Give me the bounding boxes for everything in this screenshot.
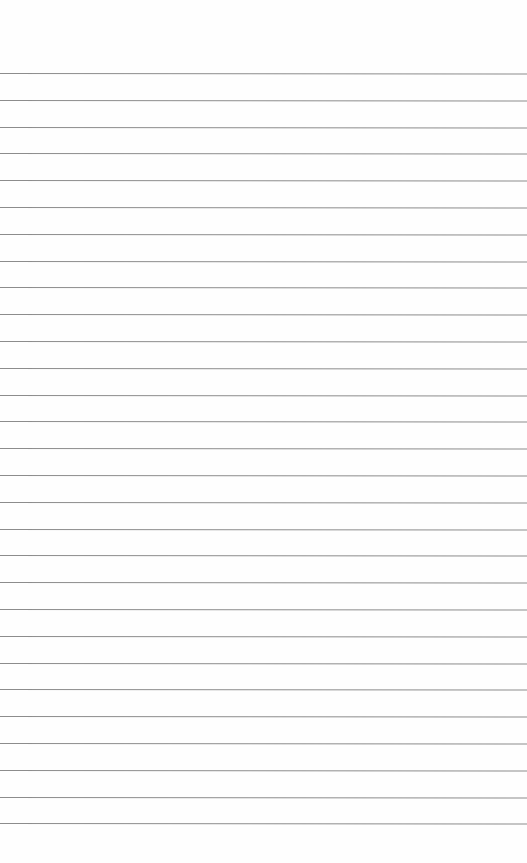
ruled-line: [0, 448, 527, 450]
ruled-line: [0, 100, 527, 102]
ruled-line: [0, 127, 527, 129]
ruled-line: [0, 529, 527, 531]
lined-paper-sheet: [0, 0, 527, 863]
ruled-line: [0, 823, 527, 825]
ruled-line: [0, 770, 527, 772]
ruled-line: [0, 287, 527, 289]
ruled-line: [0, 797, 527, 799]
ruled-line: [0, 555, 527, 557]
ruled-line: [0, 207, 527, 209]
ruled-line: [0, 314, 527, 316]
ruled-line: [0, 234, 527, 236]
ruled-line: [0, 582, 527, 584]
ruled-line: [0, 341, 527, 343]
ruled-line: [0, 395, 527, 397]
ruled-line: [0, 636, 527, 638]
ruled-line: [0, 261, 527, 263]
ruled-line: [0, 73, 527, 75]
ruled-line: [0, 663, 527, 665]
ruled-line: [0, 180, 527, 182]
ruled-line: [0, 421, 527, 423]
ruled-line: [0, 716, 527, 718]
ruled-line: [0, 475, 527, 477]
ruled-line: [0, 368, 527, 370]
ruled-line: [0, 689, 527, 691]
ruled-line: [0, 743, 527, 745]
ruled-line: [0, 153, 527, 155]
ruled-line: [0, 502, 527, 504]
ruled-line: [0, 609, 527, 611]
